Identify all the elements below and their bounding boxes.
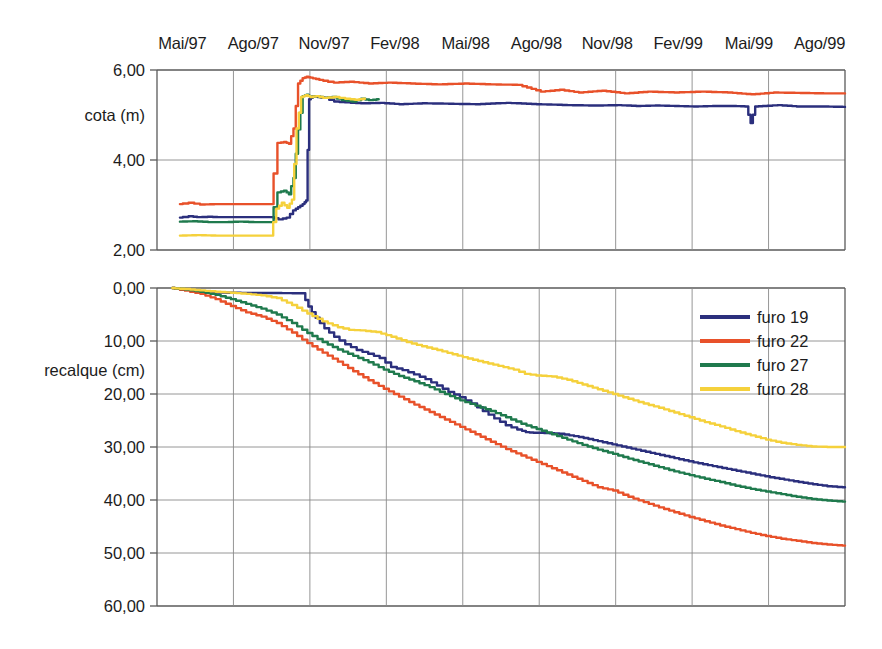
- recalque-y-tick-3: 30,00: [48, 438, 145, 457]
- legend-label-furo-22: furo 22: [757, 332, 808, 351]
- cota-axis-title: cota (m): [55, 106, 145, 125]
- recalque-y-tick-1: 10,00: [48, 332, 145, 351]
- x-tick-label-9: Ago/99: [794, 34, 845, 53]
- recalque-y-tick-5: 50,00: [48, 544, 145, 563]
- legend-swatch-furo-22: [700, 339, 750, 343]
- x-tick-label-5: Ago/98: [511, 34, 562, 53]
- cota-y-tick-2: 2,00: [60, 241, 145, 260]
- recalque-y-tick-6: 60,00: [48, 597, 145, 616]
- cota-y-tick-1: 4,00: [60, 151, 145, 170]
- recalque-y-tick-0: 0,00: [48, 279, 145, 298]
- top-date-axis: Mai/97Ago/97Nov/97Fev/98Mai/98Ago/98Nov/…: [0, 34, 882, 60]
- x-tick-label-8: Mai/99: [725, 34, 773, 53]
- legend-label-furo-27: furo 27: [757, 356, 808, 375]
- legend-label-furo-28: furo 28: [757, 380, 808, 399]
- series-line-furo-27: [180, 95, 379, 222]
- legend-label-furo-19: furo 19: [757, 308, 808, 327]
- legend-item-furo-22: furo 22: [700, 329, 860, 353]
- series-line-furo-22: [180, 77, 845, 205]
- cota-y-tick-0: 6,00: [60, 61, 145, 80]
- x-tick-label-2: Nov/97: [298, 34, 349, 53]
- legend-swatch-furo-19: [700, 315, 750, 319]
- legend-item-furo-27: furo 27: [700, 353, 860, 377]
- x-tick-label-1: Ago/97: [228, 34, 279, 53]
- series-line-furo-19: [180, 96, 845, 219]
- x-tick-label-6: Nov/98: [582, 34, 633, 53]
- x-tick-label-0: Mai/97: [158, 34, 206, 53]
- x-tick-label-3: Fev/98: [370, 34, 419, 53]
- legend-item-furo-19: furo 19: [700, 305, 860, 329]
- legend: furo 19furo 22furo 27furo 28: [700, 305, 860, 401]
- x-tick-label-4: Mai/98: [441, 34, 489, 53]
- legend-swatch-furo-27: [700, 363, 750, 367]
- cota-plot: [157, 70, 845, 250]
- recalque-axis-title: recalque (cm): [14, 361, 145, 380]
- legend-item-furo-28: furo 28: [700, 377, 860, 401]
- settlement-and-elevation-chart: Mai/97Ago/97Nov/97Fev/98Mai/98Ago/98Nov/…: [0, 0, 882, 649]
- legend-swatch-furo-28: [700, 387, 750, 391]
- recalque-y-tick-4: 40,00: [48, 491, 145, 510]
- recalque-y-tick-2: 20,00: [48, 385, 145, 404]
- x-tick-label-7: Fev/99: [653, 34, 702, 53]
